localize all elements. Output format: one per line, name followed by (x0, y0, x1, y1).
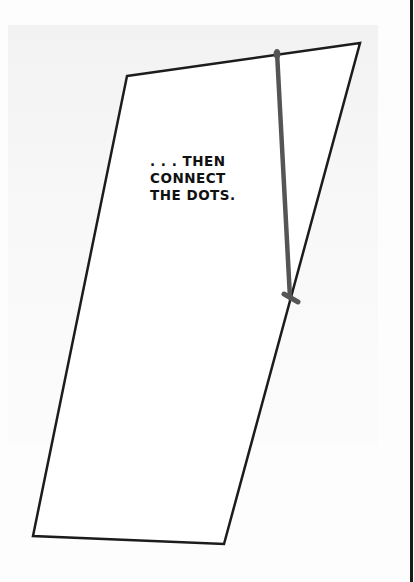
caption-text: . . . THEN CONNECT THE DOTS. (150, 153, 260, 204)
caption-line-2: CONNECT (150, 170, 260, 187)
comic-panel: . . . THEN CONNECT THE DOTS. (0, 0, 414, 582)
panel-border-right (410, 0, 413, 582)
start-dot (274, 49, 281, 59)
caption-line-1: . . . THEN (150, 153, 260, 170)
panel-drawing (0, 0, 414, 582)
caption-line-3: THE DOTS. (150, 187, 260, 204)
parallelogram-outline (33, 43, 360, 544)
